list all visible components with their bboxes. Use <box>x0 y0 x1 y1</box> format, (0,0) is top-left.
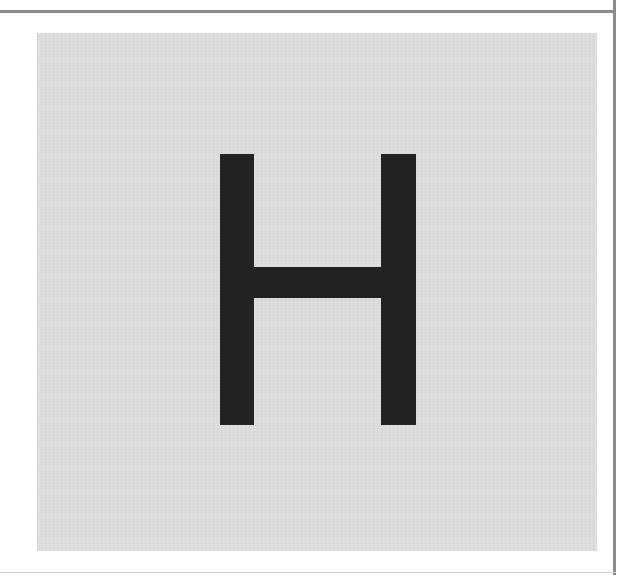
letter-card: H <box>37 33 597 551</box>
frame-top-border <box>0 10 616 13</box>
letter-glyph: H <box>220 154 416 425</box>
frame-right-border <box>613 0 616 575</box>
frame-bottom-border <box>0 572 616 573</box>
letter-right-stem <box>381 154 416 425</box>
